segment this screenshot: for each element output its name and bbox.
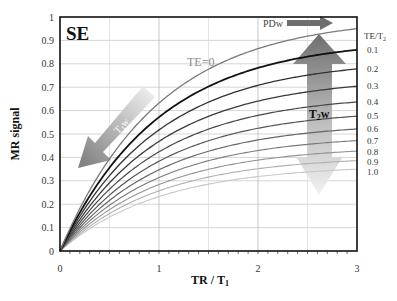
legend-label: 0.4 <box>367 97 379 107</box>
legend-label: 0.5 <box>367 111 379 121</box>
y-axis-label: MR signal <box>8 107 22 161</box>
y-tick-label: 0.8 <box>42 58 55 69</box>
x-tick-label: 0 <box>58 263 63 274</box>
y-tick-label: 0 <box>49 246 54 257</box>
x-tick-label: 3 <box>355 263 360 274</box>
x-tick-label: 1 <box>157 263 162 274</box>
legend-label: 0.7 <box>367 136 379 146</box>
x-tick-label: 2 <box>256 263 261 274</box>
legend-label: 0.1 <box>367 45 378 55</box>
y-tick-label: 0.5 <box>42 129 55 140</box>
pdw-label: PDw <box>263 18 284 29</box>
y-tick-label: 0.4 <box>42 152 55 163</box>
legend-label: 1.0 <box>367 167 379 177</box>
pdw-arrow: PDw <box>263 16 333 30</box>
y-tick-label: 0.6 <box>42 105 55 116</box>
legend-label: 0.8 <box>367 147 379 157</box>
y-tick-label: 0.7 <box>42 82 55 93</box>
legend-label: 0.3 <box>367 81 379 91</box>
legend-label: 0.9 <box>367 157 379 167</box>
y-tick-label: 1 <box>49 12 54 23</box>
legend-title: TE/T2 <box>364 31 386 42</box>
x-axis-label: TR / T1 <box>191 273 229 288</box>
y-tick-label: 0.1 <box>42 222 55 233</box>
se-signal-chart: 00.10.20.30.40.50.60.70.80.91 0123 T1w T… <box>0 0 397 301</box>
legend-label: 0.2 <box>367 64 378 74</box>
chart-title: SE <box>66 23 89 44</box>
legend-label: 0.6 <box>367 124 379 134</box>
te0-label: TE=0 <box>187 55 214 69</box>
y-tick-label: 0.3 <box>42 175 55 186</box>
y-tick-labels: 00.10.20.30.40.50.60.70.80.91 <box>42 12 55 257</box>
y-tick-label: 0.9 <box>42 35 55 46</box>
x-tick-labels: 0123 <box>58 251 360 274</box>
t1w-arrow: T1w <box>78 86 155 168</box>
te-t2-legend: 0.10.20.30.40.50.60.70.80.91.0 <box>367 45 379 177</box>
y-tick-label: 0.2 <box>42 199 55 210</box>
